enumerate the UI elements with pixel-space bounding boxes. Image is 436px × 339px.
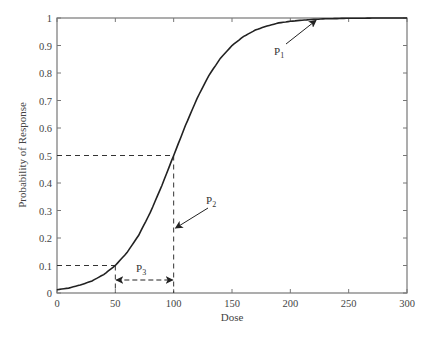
- y-axis-label: Probability of Response: [16, 102, 28, 208]
- y-tick-label: 0.8: [39, 68, 52, 79]
- y-tick-label: 0.2: [39, 233, 52, 244]
- x-tick-label: 50: [110, 298, 121, 309]
- y-tick-label: 0: [47, 288, 52, 299]
- plot-frame: [57, 18, 407, 293]
- p2-label: P2: [206, 194, 216, 209]
- y-tick-label: 0.7: [39, 96, 52, 107]
- reference-lines: [57, 156, 174, 294]
- x-tick-label: 150: [224, 298, 240, 309]
- p1-arrow: [286, 20, 316, 44]
- x-tick-label: 250: [341, 298, 357, 309]
- y-tick-label: 0.5: [39, 151, 52, 162]
- y-tick-label: 0.3: [39, 206, 52, 217]
- annotations: P1P2P3: [116, 20, 316, 280]
- x-tick-label: 200: [282, 298, 298, 309]
- dose-response-chart: 05010015020025030000.10.20.30.40.50.60.7…: [0, 0, 436, 339]
- x-axis-label: Dose: [221, 311, 244, 323]
- p2-arrow: [176, 208, 208, 228]
- y-tick-label: 0.4: [39, 178, 53, 189]
- axis-ticks: 05010015020025030000.10.20.30.40.50.60.7…: [39, 13, 415, 309]
- y-tick-label: 0.9: [39, 41, 52, 52]
- p1-label: P1: [274, 45, 284, 60]
- x-tick-label: 100: [166, 298, 182, 309]
- y-tick-label: 0.1: [39, 261, 52, 272]
- y-tick-label: 1: [47, 13, 52, 24]
- p3-label: P3: [136, 262, 146, 277]
- x-tick-label: 300: [399, 298, 415, 309]
- y-tick-label: 0.6: [39, 123, 52, 134]
- dose-response-curve: [57, 18, 407, 290]
- x-tick-label: 0: [54, 298, 59, 309]
